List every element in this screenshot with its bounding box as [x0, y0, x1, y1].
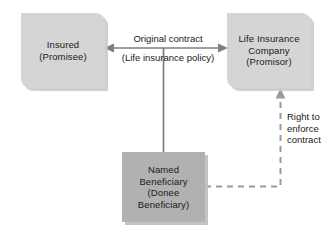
- edge-right-to-enforce: [205, 88, 285, 187]
- node-life-insurance-company[interactable]: Life Insurance Company (Promisor): [227, 13, 311, 88]
- edge-label-original-contract: Original contract: [110, 33, 226, 45]
- node-named-beneficiary-label: Named Beneficiary (Donee Beneficiary): [135, 164, 192, 210]
- node-insured-label: Insured (Promisee): [36, 39, 89, 62]
- diagram-canvas: Insured (Promisee) Life Insurance Compan…: [0, 0, 334, 234]
- arrowhead-enforce-to-insurer: [276, 88, 286, 99]
- right-to-enforce-dashed-path: [205, 97, 281, 187]
- node-life-insurance-company-label: Life Insurance Company (Promisor): [235, 33, 302, 68]
- edge-label-life-insurance-policy: (Life insurance policy): [106, 52, 230, 64]
- node-insured[interactable]: Insured (Promisee): [21, 13, 105, 88]
- node-named-beneficiary[interactable]: Named Beneficiary (Donee Beneficiary): [122, 152, 205, 222]
- edge-label-right-to-enforce-contract: Right to enforce contract: [287, 111, 333, 146]
